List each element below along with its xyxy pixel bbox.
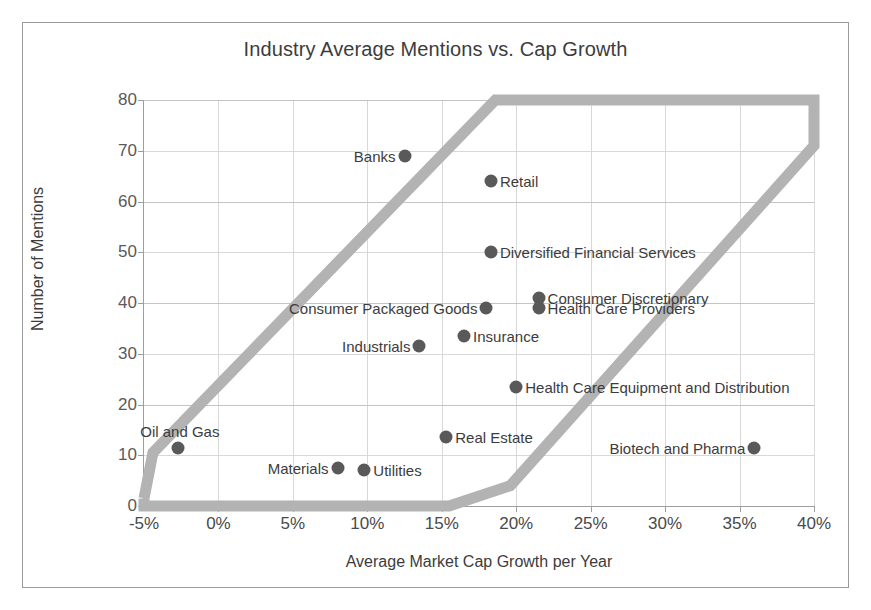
gridline-vertical [814, 100, 815, 506]
x-tick-mark [591, 506, 592, 512]
scatter-point-label: Biotech and Pharma [610, 439, 746, 456]
scatter-point[interactable] [510, 380, 523, 393]
y-tick-label: 50 [118, 242, 137, 262]
x-tick-label: 25% [574, 514, 608, 534]
y-tick-label: 10 [118, 445, 137, 465]
y-tick-mark [138, 405, 144, 406]
y-tick-mark [138, 252, 144, 253]
scatter-point-label: Real Estate [455, 429, 533, 446]
y-tick-label: 40 [118, 293, 137, 313]
y-axis-label: Number of Mentions [29, 159, 47, 359]
gridline-horizontal [144, 303, 814, 304]
scatter-point[interactable] [440, 431, 453, 444]
y-tick-mark [138, 202, 144, 203]
y-tick-mark [138, 506, 144, 507]
x-tick-label: 20% [499, 514, 533, 534]
y-tick-mark [138, 455, 144, 456]
scatter-point-label: Health Care Equipment and Distribution [525, 378, 789, 395]
y-tick-label: 30 [118, 344, 137, 364]
scatter-point[interactable] [748, 441, 761, 454]
y-tick-label: 70 [118, 141, 137, 161]
y-tick-mark [138, 100, 144, 101]
x-tick-label: 35% [723, 514, 757, 534]
scatter-point[interactable] [331, 461, 344, 474]
x-tick-mark [814, 506, 815, 512]
gridline-horizontal [144, 252, 814, 253]
scatter-point-label: Diversified Financial Services [500, 244, 696, 261]
y-tick-mark [138, 354, 144, 355]
scatter-point[interactable] [480, 302, 493, 315]
x-axis-line [144, 506, 815, 507]
scatter-point-label: Industrials [342, 338, 410, 355]
chart-title: Industry Average Mentions vs. Cap Growth [0, 38, 871, 61]
scatter-point[interactable] [532, 302, 545, 315]
y-tick-label: 0 [128, 496, 137, 516]
scatter-point-label: Insurance [473, 327, 539, 344]
scatter-point[interactable] [413, 340, 426, 353]
y-tick-mark [138, 151, 144, 152]
scatter-point[interactable] [458, 329, 471, 342]
scatter-point-label: Consumer Packaged Goods [289, 300, 477, 317]
x-tick-label: 0% [206, 514, 231, 534]
y-tick-label: 60 [118, 192, 137, 212]
y-tick-label: 20 [118, 395, 137, 415]
scatter-point-label: Banks [354, 147, 396, 164]
x-tick-mark [367, 506, 368, 512]
scatter-point[interactable] [172, 441, 185, 454]
scatter-point-label: Oil and Gas [140, 422, 219, 439]
x-tick-label: -5% [129, 514, 159, 534]
x-tick-label: 5% [281, 514, 306, 534]
x-tick-mark [740, 506, 741, 512]
x-tick-mark [665, 506, 666, 512]
x-tick-label: 15% [425, 514, 459, 534]
scatter-point-label: Utilities [373, 462, 421, 479]
y-tick-mark [138, 303, 144, 304]
gridline-horizontal [144, 354, 814, 355]
x-tick-mark [516, 506, 517, 512]
scatter-point[interactable] [358, 464, 371, 477]
x-tick-label: 30% [648, 514, 682, 534]
x-axis-label: Average Market Cap Growth per Year [144, 553, 814, 571]
chart-screenshot: Industry Average Mentions vs. Cap Growth… [0, 0, 871, 610]
x-tick-mark [442, 506, 443, 512]
x-tick-label: 10% [350, 514, 384, 534]
gridline-horizontal [144, 151, 814, 152]
scatter-point[interactable] [398, 149, 411, 162]
scatter-point-label: Health Care Providers [548, 300, 696, 317]
gridline-horizontal [144, 202, 814, 203]
x-tick-mark [218, 506, 219, 512]
plot-area: 01020304050607080 -5%0%5%10%15%20%25%30%… [144, 100, 814, 506]
gridline-horizontal [144, 100, 814, 101]
scatter-point-label: Retail [500, 173, 538, 190]
scatter-point[interactable] [484, 175, 497, 188]
gridline-horizontal [144, 405, 814, 406]
x-tick-mark [293, 506, 294, 512]
y-tick-label: 80 [118, 90, 137, 110]
x-tick-label: 40% [797, 514, 831, 534]
scatter-point-label: Materials [268, 459, 329, 476]
scatter-point[interactable] [484, 246, 497, 259]
